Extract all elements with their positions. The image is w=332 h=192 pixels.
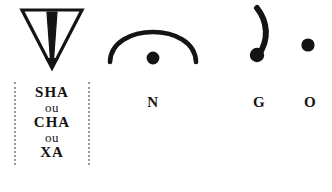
arch-with-dot-icon (98, 0, 208, 80)
reading-line: CHA (16, 115, 88, 130)
reading-line: ou (16, 131, 88, 144)
hook-stroke-with-blob-icon (228, 0, 290, 80)
sign-glyph-o (288, 0, 332, 80)
reading-line: ou (16, 101, 88, 114)
sign-label-o: O (288, 94, 332, 111)
sign-glyph-sha (8, 0, 96, 80)
hieroglyph-sign-plate: SHA ou CHA ou XA N G O (0, 0, 332, 192)
transliteration-row: SHA ou CHA ou XA N G O (0, 82, 332, 192)
filled-dot-icon (288, 0, 332, 80)
reading-line: XA (16, 145, 88, 160)
reading-line: SHA (16, 85, 88, 100)
reading-block-sha: SHA ou CHA ou XA (14, 82, 90, 165)
sign-label-n: N (98, 94, 208, 111)
inverted-triangle-with-wedge-icon (8, 0, 96, 80)
sign-glyph-g (228, 0, 290, 80)
sign-glyph-n (98, 0, 208, 80)
sign-label-g: G (228, 94, 290, 111)
